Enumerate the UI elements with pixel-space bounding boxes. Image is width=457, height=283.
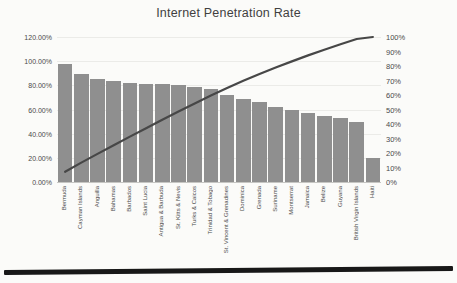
y-right-tick-label: 70% bbox=[386, 76, 426, 85]
x-tick-label: St. Vincent & Grenadines bbox=[223, 186, 229, 253]
y-right-tick-label: 90% bbox=[386, 47, 426, 56]
y-left-tick-label: 120.00% bbox=[4, 34, 52, 41]
x-tick-label: Jamaica bbox=[304, 186, 310, 208]
x-tick-label: British Virgin Islands bbox=[353, 186, 359, 240]
y-right-tick-label: 60% bbox=[386, 91, 426, 100]
x-tick-label: Turks & Caicos bbox=[191, 186, 197, 226]
y-right-tick-label: 80% bbox=[386, 62, 426, 71]
cumulative-line bbox=[57, 37, 381, 182]
x-tick-label: Antigua & Barbuda bbox=[158, 186, 164, 236]
y-left-tick-label: 20.00% bbox=[4, 154, 52, 161]
y-left-tick-label: 40.00% bbox=[4, 130, 52, 137]
x-tick-label: Cayman Islands bbox=[77, 186, 83, 229]
y-left-tick-label: 0.00% bbox=[4, 179, 52, 186]
x-tick-label: Grenada bbox=[256, 186, 262, 209]
y-right-tick-label: 100% bbox=[386, 33, 426, 42]
y-right-tick-label: 0% bbox=[386, 178, 426, 187]
x-tick-label: Montserrat bbox=[288, 186, 294, 215]
x-tick-label: Belize bbox=[320, 186, 326, 202]
x-tick-label: St. Kitts & Nevis bbox=[175, 186, 181, 229]
bottom-divider bbox=[4, 266, 453, 275]
y-right-tick-label: 30% bbox=[386, 134, 426, 143]
y-left-tick-label: 100.00% bbox=[4, 58, 52, 65]
y-left-tick-label: 60.00% bbox=[4, 106, 52, 113]
cumulative-line-path bbox=[65, 37, 373, 172]
chart-page: Internet Penetration Rate 120.00%100.00%… bbox=[0, 0, 457, 283]
y-left-tick-label: 80.00% bbox=[4, 82, 52, 89]
chart-title: Internet Penetration Rate bbox=[0, 6, 457, 20]
y-right-tick-label: 40% bbox=[386, 120, 426, 129]
x-tick-label: Dominica bbox=[239, 186, 245, 211]
x-tick-label: Trinidad & Tobago bbox=[207, 186, 213, 234]
x-tick-label: Bahamas bbox=[110, 186, 116, 211]
y-right-tick-label: 20% bbox=[386, 149, 426, 158]
x-tick-label: Bermuda bbox=[61, 186, 67, 210]
x-tick-label: Suriname bbox=[272, 186, 278, 212]
plot-area bbox=[57, 37, 381, 182]
x-tick-label: Haiti bbox=[369, 186, 375, 198]
x-tick-label: Saint Lucia bbox=[142, 186, 148, 216]
x-tick-label: Anguilla bbox=[94, 186, 100, 207]
x-tick-label: Guyana bbox=[337, 186, 343, 207]
y-right-tick-label: 10% bbox=[386, 163, 426, 172]
x-axis-line bbox=[57, 182, 381, 183]
y-right-tick-label: 50% bbox=[386, 105, 426, 114]
x-tick-label: Barbados bbox=[126, 186, 132, 212]
